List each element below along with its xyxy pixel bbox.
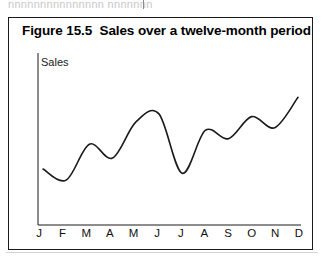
x-tick-sep: S [222, 227, 234, 239]
sales-line-series [43, 97, 298, 181]
x-tick-may: M [128, 227, 140, 239]
x-tick-nov: N [269, 227, 281, 239]
x-tick-apr: A [104, 227, 116, 239]
x-tick-mar: M [80, 227, 92, 239]
x-tick-jun: J [151, 227, 163, 239]
chart-plot-area: Sales J F M A M J J A S O N D [9, 18, 314, 251]
figure-box: Figure 15.5 Sales over a twelve-month pe… [8, 17, 313, 250]
x-tick-feb: F [57, 227, 69, 239]
x-axis-tick-labels: J F M A M J J A S O N D [33, 227, 305, 243]
line-chart-svg [9, 18, 314, 251]
x-tick-jan: J [33, 227, 45, 239]
x-tick-aug: A [198, 227, 210, 239]
scan-artifact-caret [143, 0, 144, 9]
scan-top-artifact: nnnnnnnnnnnnnnn nnnnnnn [0, 0, 323, 9]
x-tick-dec: D [293, 227, 305, 239]
x-tick-jul: J [175, 227, 187, 239]
scan-top-artifact-text: nnnnnnnnnnnnnnn nnnnnnn [8, 0, 153, 9]
x-tick-oct: O [246, 227, 258, 239]
scan-bottom-rule [6, 252, 318, 253]
